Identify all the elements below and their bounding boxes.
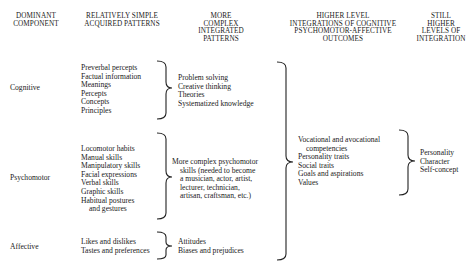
- brace-icon: [157, 61, 172, 119]
- brace-connectors: [0, 0, 475, 266]
- brace-icon: [157, 133, 172, 219]
- brace-icon: [399, 130, 415, 195]
- brace-icon: [277, 62, 293, 260]
- brace-icon: [157, 232, 172, 259]
